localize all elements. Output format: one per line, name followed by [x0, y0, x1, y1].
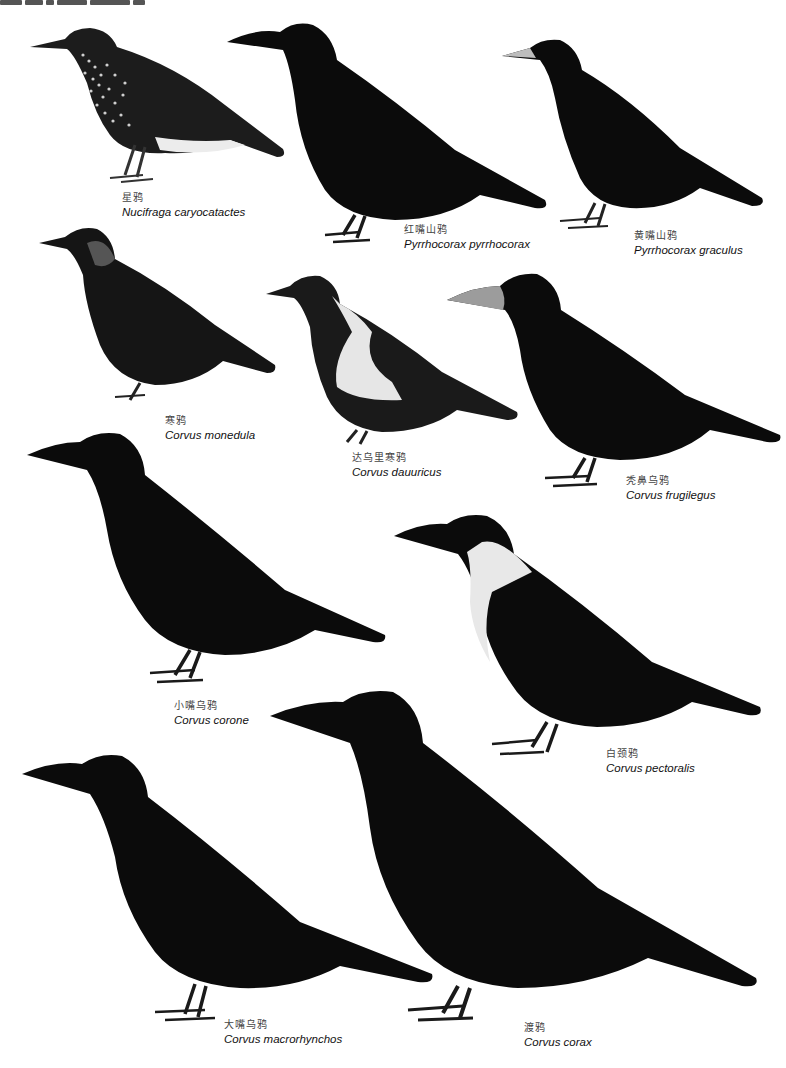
- scientific-name: Corvus corax: [524, 1035, 592, 1049]
- scientific-name: Pyrrhocorax graculus: [634, 243, 743, 257]
- species-label-yellow-billed-chough: 黄嘴山鸦 Pyrrhocorax graculus: [634, 230, 743, 257]
- scientific-name: Corvus frugilegus: [626, 488, 715, 502]
- species-label-carrion-crow: 小嘴乌鸦 Corvus corone: [174, 700, 249, 727]
- bird-illustration-raven: [268, 688, 763, 1033]
- chinese-name: 黄嘴山鸦: [634, 230, 743, 243]
- chinese-name: 小嘴乌鸦: [174, 700, 249, 713]
- species-label-rook: 秃鼻乌鸦 Corvus frugilegus: [626, 475, 715, 502]
- bird-illustration-jackdaw: [35, 225, 280, 415]
- scientific-name: Corvus macrorhynchos: [224, 1032, 342, 1046]
- chinese-name: 寒鸦: [165, 415, 255, 428]
- bird-illustration-rook: [445, 270, 785, 495]
- species-label-raven: 渡鸦 Corvus corax: [524, 1022, 592, 1049]
- scientific-name: Corvus corone: [174, 713, 249, 727]
- bird-illustration-carrion-crow: [25, 430, 390, 695]
- scientific-name: Pyrrhocorax pyrrhocorax: [404, 237, 530, 251]
- bird-illustration-yellow-billed-chough: [500, 38, 770, 233]
- chinese-name: 秃鼻乌鸦: [626, 475, 715, 488]
- chinese-name: 渡鸦: [524, 1022, 592, 1035]
- page-header-fragment: [0, 0, 200, 8]
